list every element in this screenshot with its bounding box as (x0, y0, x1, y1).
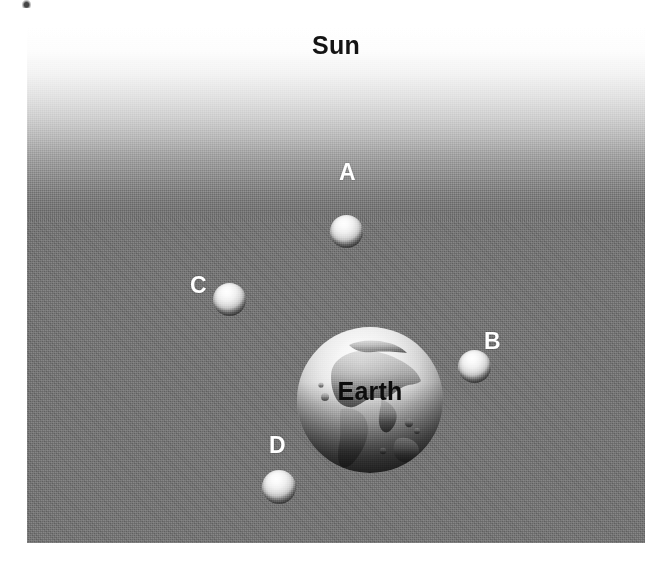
diagram-figure: Sun A C (27, 27, 645, 543)
scan-artifact-speck (22, 0, 31, 8)
moon-b-sphere (458, 350, 491, 383)
earth-globe: Earth (297, 327, 443, 473)
moon-a-label: A (339, 161, 356, 184)
earth-label: Earth (338, 377, 403, 405)
moon-b-label: B (484, 330, 501, 353)
sun-label: Sun (27, 33, 645, 58)
moon-d-sphere (262, 470, 296, 504)
earth-label-container: Earth (297, 379, 443, 404)
moon-a-sphere (330, 215, 363, 248)
moon-c-sphere (213, 283, 246, 316)
moon-c-label: C (190, 274, 207, 297)
moon-d-label: D (269, 434, 286, 457)
